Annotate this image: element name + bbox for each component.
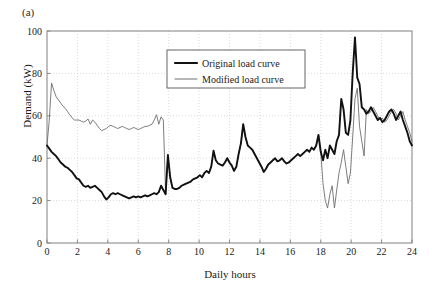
- svg-text:Original load curve: Original load curve: [202, 58, 280, 69]
- svg-text:40: 40: [32, 153, 42, 164]
- svg-text:4: 4: [105, 246, 110, 257]
- svg-text:10: 10: [194, 246, 204, 257]
- svg-text:0: 0: [37, 238, 42, 249]
- svg-text:20: 20: [346, 246, 356, 257]
- load-curve-chart: 024681012141618202224020406080100 Origin…: [0, 0, 429, 291]
- svg-text:6: 6: [136, 246, 141, 257]
- y-axis-label: Demand (kW): [21, 26, 33, 166]
- svg-text:60: 60: [32, 110, 42, 121]
- chart-legend[interactable]: Original load curveModified load curve: [167, 50, 305, 88]
- svg-text:16: 16: [285, 246, 295, 257]
- svg-text:Modified load curve: Modified load curve: [202, 74, 284, 85]
- svg-text:20: 20: [32, 195, 42, 206]
- svg-text:80: 80: [32, 68, 42, 79]
- svg-text:12: 12: [225, 246, 235, 257]
- svg-text:8: 8: [166, 246, 171, 257]
- svg-text:18: 18: [316, 246, 326, 257]
- figure-panel: (a) Demand (kW) Daily hours 024681012141…: [0, 0, 429, 291]
- svg-text:24: 24: [407, 246, 417, 257]
- svg-text:22: 22: [377, 246, 387, 257]
- svg-text:0: 0: [45, 246, 50, 257]
- x-axis-label: Daily hours: [47, 268, 413, 280]
- panel-label: (a): [22, 6, 34, 18]
- svg-text:14: 14: [255, 246, 265, 257]
- svg-text:2: 2: [75, 246, 80, 257]
